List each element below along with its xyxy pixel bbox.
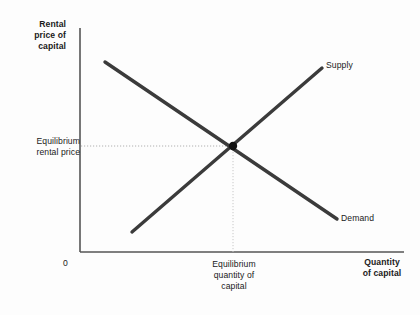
y-axis-title: Rental price of capital [0,19,66,52]
origin-label: 0 [63,258,68,269]
supply-curve [132,68,322,232]
equilibrium-rental-price-label: Equilibrium rental price [0,136,80,158]
equilibrium-point-marker [229,142,237,150]
supply-demand-chart: Rental price of capital Quantity of capi… [0,0,420,315]
x-axis-title: Quantity of capital [348,257,416,279]
demand-curve-label: Demand [341,213,374,224]
supply-curve-label: Supply [326,60,353,71]
equilibrium-quantity-label: Equilibrium quantity of capital [188,259,280,292]
